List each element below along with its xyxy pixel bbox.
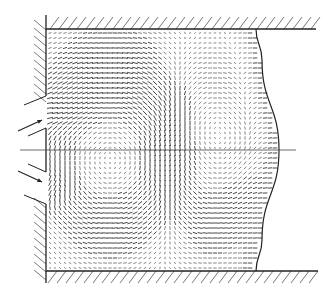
upper-inlet-wall-top [24, 96, 46, 105]
lower-inlet-wall-bottom [24, 195, 46, 204]
lower-inlet-wall-top [28, 164, 46, 172]
velocity-vectors [47, 32, 277, 268]
flow-diagram [0, 0, 332, 298]
inlet-arrows [18, 120, 42, 182]
flow-field-svg [0, 0, 332, 298]
chamber-walls [24, 15, 318, 283]
upper-inlet-wall-bottom [28, 128, 46, 136]
